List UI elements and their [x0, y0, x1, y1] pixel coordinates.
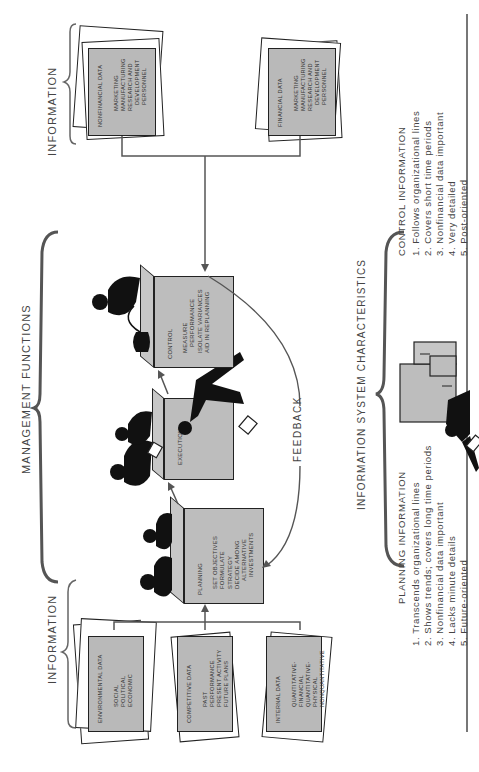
list-item: 5. Post-oriented [458, 111, 470, 256]
control-information-list: 1. Follows organizational lines 2. Cover… [410, 111, 470, 256]
control-information-title: CONTROL INFORMATION [396, 111, 407, 256]
control-information-section: CONTROL INFORMATION 1. Follows organizat… [396, 111, 470, 256]
list-item: 4. Very detailed [446, 111, 458, 256]
list-item: 3. Nonfinancial data important [434, 111, 446, 256]
diagram-canvas: INFORMATION ENVIRONMENTAL DATA SOCIAL PO… [0, 0, 479, 772]
list-item: 2. Covers short time periods [422, 111, 434, 256]
list-item: 1. Follows organizational lines [410, 111, 422, 256]
